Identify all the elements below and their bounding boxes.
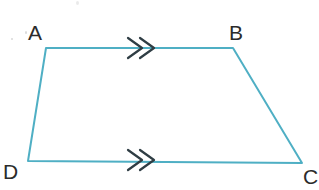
trapezium-diagram [0, 0, 319, 190]
scan-speck [25, 31, 27, 34]
vertex-label-d: D [3, 161, 19, 182]
trapezium-outline-path [28, 48, 302, 163]
vertex-label-b: B [229, 22, 244, 43]
parallel-marker-bottom-dc [128, 150, 154, 170]
chevron-arrow-icon-bottom-first [128, 150, 142, 170]
geometry-figure-canvas: A B C D [0, 0, 319, 190]
scan-speck [76, 1, 79, 5]
vertex-label-a: A [28, 22, 43, 43]
scan-speck [11, 38, 13, 40]
vertex-label-c: C [303, 166, 319, 187]
